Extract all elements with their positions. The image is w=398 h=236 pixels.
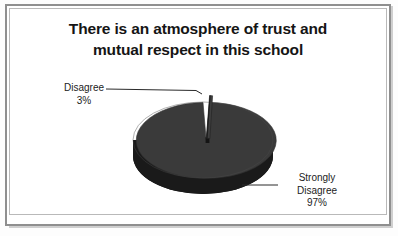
frame-shadow-right (391, 6, 393, 228)
pie-chart: There is an atmosphere of trust and mutu… (10, 9, 386, 214)
data-label-strongly-disagree-name-2: Disagree (284, 185, 350, 198)
data-label-disagree-name: Disagree (53, 82, 115, 95)
leader-line-disagree (106, 89, 202, 94)
chart-page: There is an atmosphere of trust and mutu… (0, 0, 398, 236)
data-label-disagree: Disagree 3% (53, 82, 115, 107)
data-label-strongly-disagree: Strongly Disagree 97% (284, 172, 350, 210)
frame-shadow-bottom (9, 226, 391, 228)
data-label-disagree-value: 3% (53, 95, 115, 108)
data-label-strongly-disagree-value: 97% (284, 197, 350, 210)
data-label-strongly-disagree-name-1: Strongly (284, 172, 350, 185)
